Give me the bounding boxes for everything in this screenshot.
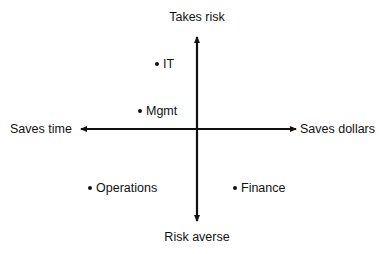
axis-label-left: Saves time [10, 122, 72, 136]
point-label: IT [163, 57, 174, 71]
point-it: IT [155, 57, 174, 71]
axis-label-right: Saves dollars [300, 122, 375, 136]
axis-label-top: Takes risk [169, 10, 225, 24]
bullet-icon [138, 109, 142, 113]
point-label: Finance [241, 181, 285, 195]
bullet-icon [155, 62, 159, 66]
axis-label-bottom: Risk averse [164, 230, 229, 244]
bullet-icon [88, 186, 92, 190]
point-finance: Finance [233, 181, 285, 195]
point-label: Mgmt [146, 104, 177, 118]
point-mgmt: Mgmt [138, 104, 177, 118]
point-operations: Operations [88, 181, 157, 195]
bullet-icon [233, 186, 237, 190]
point-label: Operations [96, 181, 157, 195]
